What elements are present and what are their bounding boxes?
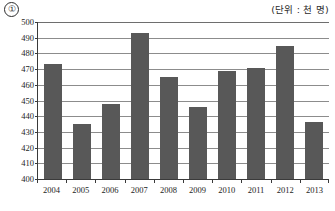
bar-slot: [154, 22, 183, 179]
x-tick-mark: [37, 180, 38, 183]
y-tick-label: 400: [21, 175, 34, 184]
x-tick-label-2008: 2008: [154, 180, 183, 200]
bar-2008: [160, 77, 178, 179]
y-tick-label: 490: [21, 33, 34, 42]
y-tick-label: 470: [21, 65, 34, 74]
x-tick-label-2005: 2005: [66, 180, 95, 200]
bar-2010: [218, 71, 236, 179]
x-tick-label-2007: 2007: [125, 180, 154, 200]
x-tick-mark: [66, 180, 67, 183]
bar-2005: [73, 124, 91, 179]
x-tick-mark: [154, 180, 155, 183]
bar-2006: [102, 104, 120, 179]
x-tick-label-2012: 2012: [271, 180, 300, 200]
x-tick-mark: [95, 180, 96, 183]
bar-slot: [96, 22, 125, 179]
plot-area: 400410420430440450460470480490500: [37, 22, 329, 180]
x-tick-mark: [300, 180, 301, 183]
y-tick-label: 460: [21, 81, 34, 90]
y-tick-label: 440: [21, 112, 34, 121]
x-tick-mark: [328, 180, 329, 183]
bar-slot: [242, 22, 271, 179]
bar-slot: [213, 22, 242, 179]
y-tick-label: 500: [21, 18, 34, 27]
bar-2011: [247, 68, 265, 179]
y-tick-label: 480: [21, 49, 34, 58]
bar-slot: [183, 22, 212, 179]
bar-2009: [189, 107, 207, 179]
bar-2013: [305, 122, 323, 179]
bar-2007: [131, 33, 149, 179]
x-tick-label-2006: 2006: [95, 180, 124, 200]
bar-slot: [125, 22, 154, 179]
y-tick-label: 430: [21, 128, 34, 137]
unit-label: (단위 : 천 명): [271, 2, 329, 16]
x-tick-mark: [241, 180, 242, 183]
y-tick-label: 410: [21, 159, 34, 168]
y-tick-label: 450: [21, 96, 34, 105]
x-tick-mark: [183, 180, 184, 183]
y-tick-label: 420: [21, 143, 34, 152]
x-tick-mark: [271, 180, 272, 183]
x-axis: 2004200520062007200820092010201120122013: [37, 180, 329, 200]
bar-slot: [38, 22, 67, 179]
x-tick-label-2013: 2013: [300, 180, 329, 200]
bar-2012: [276, 46, 294, 179]
x-tick-label-2004: 2004: [37, 180, 66, 200]
x-tick-label-2010: 2010: [212, 180, 241, 200]
bar-slot: [271, 22, 300, 179]
bar-slot: [67, 22, 96, 179]
bar-slot: [300, 22, 329, 179]
figure-number-marker: ①: [4, 2, 19, 17]
x-tick-label-2009: 2009: [183, 180, 212, 200]
bar-series: [38, 22, 329, 179]
chart-figure: ① (단위 : 천 명) 400410420430440450460470480…: [0, 0, 335, 211]
bar-2004: [44, 64, 62, 179]
x-tick-mark: [125, 180, 126, 183]
x-tick-mark: [212, 180, 213, 183]
x-tick-label-2011: 2011: [241, 180, 270, 200]
